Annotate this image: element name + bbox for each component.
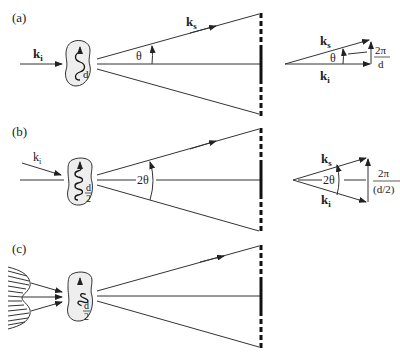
focused-wavefront-icon xyxy=(8,267,30,329)
q-numerator: 2π xyxy=(375,44,387,56)
scattered-ray-top xyxy=(97,246,259,291)
q-denominator: d xyxy=(378,58,384,70)
incident-beam-arrow-bottom xyxy=(31,302,62,311)
panel-c: (c) d 2 xyxy=(8,241,261,349)
q-numerator: 2π xyxy=(378,167,390,179)
q-denominator: (d/2) xyxy=(373,183,395,196)
scattered-wavevector-label: ks xyxy=(186,14,197,31)
scattered-ray-bottom xyxy=(97,185,259,231)
scattered-ray-top xyxy=(97,129,259,175)
vector-ki-label: ki xyxy=(320,68,330,85)
panel-a: (a) ki d ks θ θ ks ki 2π xyxy=(12,10,390,116)
spacing-d-num: d xyxy=(86,182,91,193)
panel-b-label: (b) xyxy=(12,124,27,139)
panel-b: (b) ki d 2 2θ 2θ ks ki 2π xyxy=(12,124,400,232)
scattered-ray-top xyxy=(97,14,259,59)
incident-beam-arrow xyxy=(22,163,61,175)
scattering-diagram: (a) ki d ks θ θ ks ki 2π xyxy=(0,0,400,360)
vector-angle-label: θ xyxy=(330,51,336,65)
angle-2theta-label: 2θ xyxy=(137,173,149,187)
vector-ks-label: ks xyxy=(321,151,332,168)
spacing-d-num: d xyxy=(84,300,89,311)
spacing-d-den: 2 xyxy=(86,193,91,204)
spacing-d-label: d xyxy=(83,68,89,80)
incident-beam-arrow-top xyxy=(31,283,62,292)
incident-wavevector-label: ki xyxy=(33,150,42,166)
scattered-ray-bottom xyxy=(97,69,259,114)
spacing-d-den: 2 xyxy=(84,311,89,322)
angle-arc xyxy=(150,162,153,200)
vector-ki-label: ki xyxy=(321,192,331,209)
angle-arc xyxy=(152,46,153,64)
panel-a-label: (a) xyxy=(12,10,26,25)
vector-diagram-a: θ ks ki 2π d xyxy=(285,33,390,85)
incident-wavevector-label: ki xyxy=(33,46,43,63)
vector-diagram-b: 2θ ks ki 2π (d/2) xyxy=(293,151,400,209)
scattered-ray-bottom xyxy=(97,301,259,347)
panel-c-label: (c) xyxy=(12,241,26,256)
angle-theta-label: θ xyxy=(136,49,142,63)
vector-angle-label: 2θ xyxy=(323,173,335,187)
vector-ks-label: ks xyxy=(320,33,331,50)
